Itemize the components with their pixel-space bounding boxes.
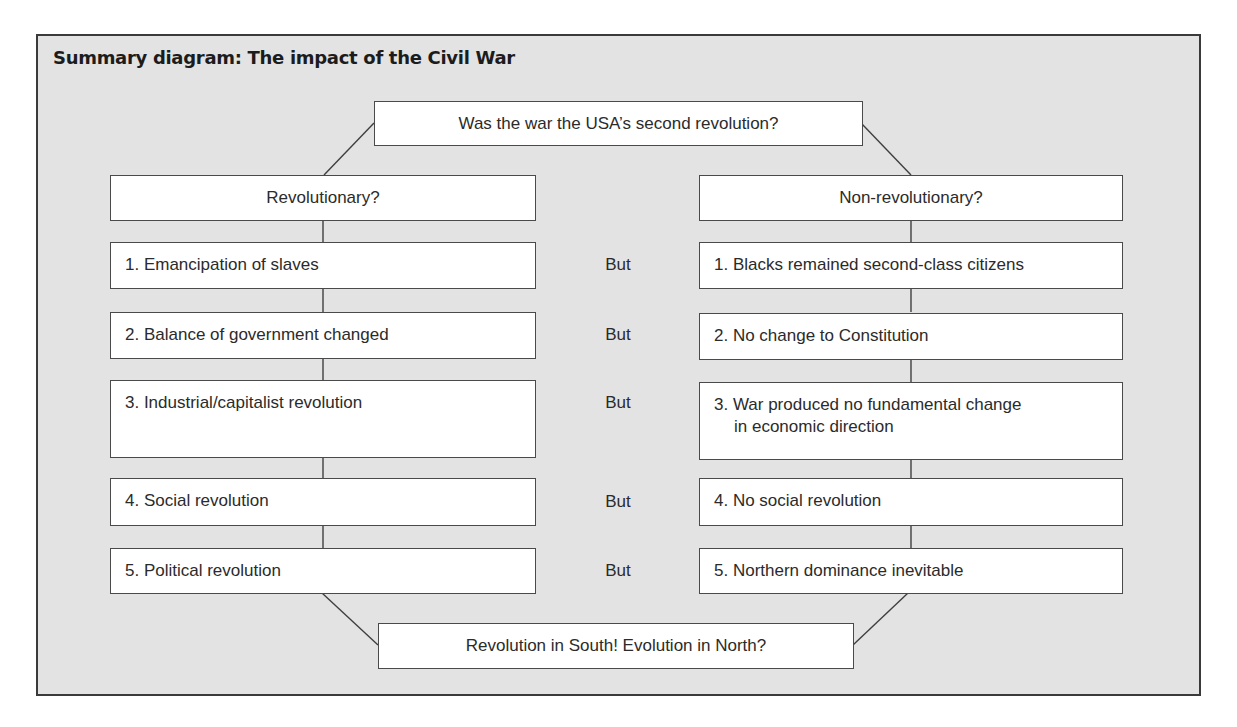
item-text: 1. Blacks remained second-class citizens [714,254,1122,276]
non-revolutionary-heading: Non-revolutionary? [839,187,983,209]
item-text: 4. Social revolution [125,490,535,512]
item-text: 5. Political revolution [125,560,535,582]
non-revolutionary-item-1: 1. Blacks remained second-class citizens [699,242,1123,289]
item-text: 2. Balance of government changed [125,324,535,346]
revolutionary-item-5: 5. Political revolution [110,548,536,594]
revolutionary-heading: Revolutionary? [266,187,379,209]
but-label-1: But [588,254,648,276]
item-text-line-1: 3. War produced no fundamental change [714,394,1122,416]
non-revolutionary-item-5: 5. Northern dominance inevitable [699,548,1123,594]
revolutionary-heading-box: Revolutionary? [110,175,536,221]
item-text-line-2: in economic direction [714,416,1122,438]
bottom-conclusion-box: Revolution in South! Evolution in North? [378,623,854,669]
item-text: 5. Northern dominance inevitable [714,560,1122,582]
bottom-conclusion-text: Revolution in South! Evolution in North? [466,635,767,657]
item-text: 4. No social revolution [714,490,1122,512]
but-label-3: But [588,392,648,414]
but-label-4: But [588,491,648,513]
diagram-title: Summary diagram: The impact of the Civil… [53,47,515,68]
top-question-box: Was the war the USA’s second revolution? [374,101,863,146]
item-text: 1. Emancipation of slaves [125,254,535,276]
but-label-5: But [588,560,648,582]
revolutionary-item-2: 2. Balance of government changed [110,312,536,359]
clipped-preceding-text [120,0,1020,2]
non-revolutionary-item-4: 4. No social revolution [699,478,1123,526]
top-question-text: Was the war the USA’s second revolution? [458,113,778,135]
non-revolutionary-item-2: 2. No change to Constitution [699,313,1123,360]
revolutionary-item-1: 1. Emancipation of slaves [110,242,536,289]
item-text: 2. No change to Constitution [714,325,1122,347]
revolutionary-item-3: 3. Industrial/capitalist revolution [110,380,536,458]
non-revolutionary-item-3: 3. War produced no fundamental change in… [699,382,1123,460]
but-label-2: But [588,324,648,346]
item-text: 3. Industrial/capitalist revolution [125,392,535,414]
non-revolutionary-heading-box: Non-revolutionary? [699,175,1123,221]
revolutionary-item-4: 4. Social revolution [110,478,536,526]
